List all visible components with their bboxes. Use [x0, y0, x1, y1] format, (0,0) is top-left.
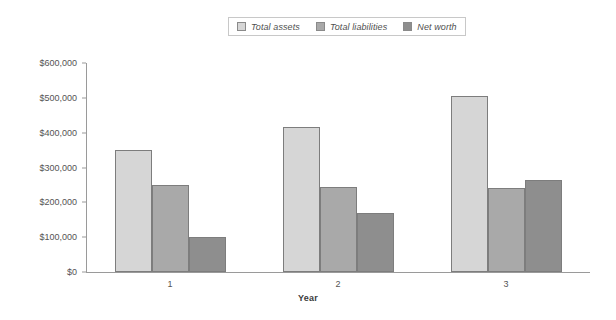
- legend-label-net-worth: Net worth: [417, 22, 456, 32]
- legend-swatch-net-worth: [403, 22, 412, 31]
- x-axis-title: Year: [0, 293, 616, 303]
- bar-net-worth-year-3: [525, 180, 562, 272]
- bar-chart: Total assets Total liabilities Net worth…: [0, 0, 616, 320]
- legend-swatch-total-assets: [237, 22, 246, 31]
- bar-net-worth-year-1: [189, 237, 226, 272]
- x-axis-tick-label-3: 3: [503, 279, 508, 289]
- chart-legend: Total assets Total liabilities Net worth: [228, 17, 466, 36]
- bar-total-liabilities-year-1: [152, 185, 189, 272]
- bar-net-worth-year-2: [357, 213, 394, 272]
- bar-total-liabilities-year-2: [320, 187, 357, 272]
- legend-item-total-liabilities: Total liabilities: [316, 22, 387, 32]
- bar-total-assets-year-3: [451, 96, 488, 272]
- legend-label-total-assets: Total assets: [251, 22, 300, 32]
- x-axis-tick-label-2: 2: [335, 279, 340, 289]
- legend-item-net-worth: Net worth: [403, 22, 456, 32]
- bar-total-liabilities-year-3: [488, 188, 525, 272]
- legend-item-total-assets: Total assets: [237, 22, 300, 32]
- x-axis-tick-label-1: 1: [167, 279, 172, 289]
- y-axis-tick-label: $300,000: [39, 163, 81, 173]
- x-axis-line: [86, 272, 590, 273]
- y-axis-tick-label: $500,000: [39, 93, 81, 103]
- y-axis-tick-label: $200,000: [39, 197, 81, 207]
- bar-total-assets-year-1: [115, 150, 152, 272]
- y-axis-tick-label: $400,000: [39, 128, 81, 138]
- legend-swatch-total-liabilities: [316, 22, 325, 31]
- y-axis-tick-label: $600,000: [39, 58, 81, 68]
- plot-area: [86, 63, 590, 272]
- bar-total-assets-year-2: [283, 127, 320, 272]
- legend-label-total-liabilities: Total liabilities: [330, 22, 387, 32]
- y-axis-tick-label: $0: [67, 267, 81, 277]
- y-axis-tick-label: $100,000: [39, 232, 81, 242]
